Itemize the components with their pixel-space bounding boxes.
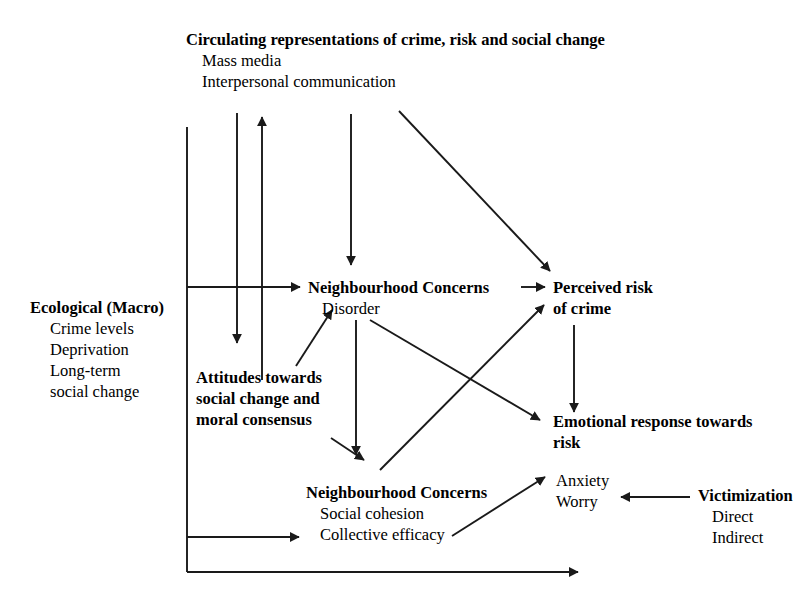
attitudes-line-2: social change and	[196, 388, 322, 409]
edge-media-to-perceived-risk	[399, 111, 550, 271]
node-neighbourhood-concerns-disorder: Neighbourhood Concerns Disorder	[308, 277, 489, 319]
ecological-item-long-term: Long-term	[30, 360, 164, 381]
causal-model-diagram: Circulating representations of crime, ri…	[0, 0, 809, 603]
concerns-disorder-heading: Neighbourhood Concerns	[308, 277, 489, 298]
node-victimization: Victimization Direct Indirect	[698, 485, 793, 548]
node-circulating-representations: Circulating representations of crime, ri…	[186, 29, 605, 92]
attitudes-line-1: Attitudes towards	[196, 367, 322, 388]
concerns-disorder-item-disorder: Disorder	[308, 298, 489, 319]
circulating-heading: Circulating representations of crime, ri…	[186, 29, 605, 50]
ecological-heading: Ecological (Macro)	[30, 297, 164, 318]
victimization-heading: Victimization	[698, 485, 793, 506]
victimization-item-direct: Direct	[698, 506, 793, 527]
perceived-risk-line-1: Perceived risk	[553, 277, 653, 298]
node-neighbourhood-concerns-cohesion: Neighbourhood Concerns Social cohesion C…	[306, 482, 487, 545]
ecological-item-deprivation: Deprivation	[30, 339, 164, 360]
node-ecological-macro: Ecological (Macro) Crime levels Deprivat…	[30, 297, 164, 402]
ecological-item-social-change: social change	[30, 381, 164, 402]
node-anxiety-worry: Anxiety Worry	[556, 470, 609, 512]
emotional-response-line-2: risk	[553, 432, 753, 453]
ecological-item-crime-levels: Crime levels	[30, 318, 164, 339]
emotional-response-item-worry: Worry	[556, 491, 609, 512]
emotional-response-line-1: Emotional response towards	[553, 411, 753, 432]
concerns-cohesion-item-social-cohesion: Social cohesion	[306, 503, 487, 524]
concerns-cohesion-heading: Neighbourhood Concerns	[306, 482, 487, 503]
concerns-cohesion-item-collective-efficacy: Collective efficacy	[306, 524, 487, 545]
perceived-risk-line-2: of crime	[553, 298, 653, 319]
node-attitudes: Attitudes towards social change and mora…	[196, 367, 322, 430]
node-perceived-risk-of-crime: Perceived risk of crime	[553, 277, 653, 319]
node-emotional-response: Emotional response towards risk	[553, 411, 753, 453]
victimization-item-indirect: Indirect	[698, 527, 793, 548]
edge-attitudes-to-cohesion	[331, 438, 364, 460]
attitudes-line-3: moral consensus	[196, 409, 322, 430]
edge-cohesion-to-perceived-risk	[380, 305, 544, 470]
circulating-item-mass-media: Mass media	[186, 50, 605, 71]
circulating-item-interpersonal-communication: Interpersonal communication	[186, 71, 605, 92]
emotional-response-item-anxiety: Anxiety	[556, 470, 609, 491]
